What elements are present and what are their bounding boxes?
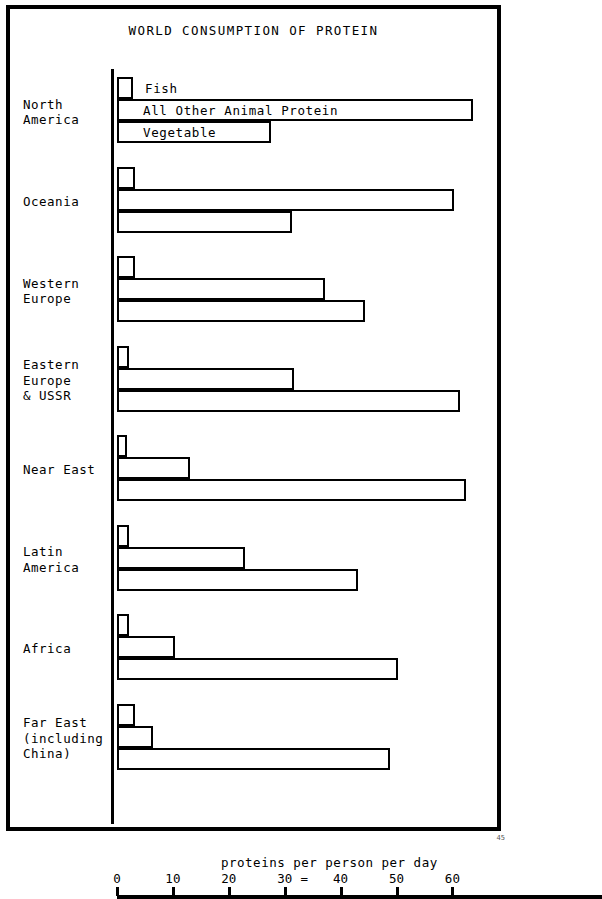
bar[interactable] [117,189,454,211]
axis-tick-label: 10 [165,871,180,886]
axis-tick-label: 40 [333,871,348,886]
equals-annotation: = [300,871,308,886]
category-label: Oceania [23,194,109,210]
bar[interactable] [117,726,153,748]
bar[interactable] [117,167,135,189]
category-axis-line [111,69,114,824]
bar[interactable] [117,99,473,121]
axis-tick [116,887,119,896]
axis-tick [172,887,175,896]
bar[interactable] [117,435,127,457]
bar[interactable] [117,278,325,300]
bar[interactable] [117,256,135,278]
bar[interactable] [117,658,398,680]
bar[interactable] [117,704,135,726]
category-label: Latin America [23,544,109,575]
axis-caption: proteins per person per day [221,855,438,870]
axis-tick [451,887,454,896]
category-label: Eastern Europe & USSR [23,357,109,404]
legend-label-0: Fish [145,81,178,96]
bar[interactable] [117,346,129,368]
axis-tick [396,887,399,896]
figure-frame: WORLD CONSUMPTION OF PROTEIN FishAll Oth… [6,5,501,831]
bar[interactable] [117,300,365,322]
category-label: Western Europe [23,276,109,307]
bar[interactable] [117,121,271,143]
bar[interactable] [117,525,129,547]
bar[interactable] [117,479,466,501]
bar[interactable] [117,368,294,390]
category-label: Africa [23,641,109,657]
axis-tick [228,887,231,896]
plot-area: FishAll Other Animal ProteinVegetable No… [111,69,511,819]
page-corner-mark: 45 [497,834,505,842]
bar[interactable] [117,211,292,233]
bar[interactable] [117,457,190,479]
value-axis-line [117,895,602,899]
axis-tick-label: 20 [221,871,236,886]
bar[interactable] [117,748,390,770]
axis-tick-label: 50 [389,871,404,886]
bar[interactable] [117,77,133,99]
category-label: North America [23,97,109,128]
chart-title: WORLD CONSUMPTION OF PROTEIN [10,23,497,38]
bar[interactable] [117,636,175,658]
axis-tick-label: 30 [277,871,292,886]
axis-tick-label: 60 [445,871,460,886]
category-label: Near East [23,462,109,478]
bar[interactable] [117,547,245,569]
axis-tick [284,887,287,896]
category-label: Far East (including China) [23,715,109,762]
bar[interactable] [117,614,129,636]
bar[interactable] [117,390,460,412]
axis-tick [340,887,343,896]
bar[interactable] [117,569,358,591]
axis-tick-label: 0 [113,871,121,886]
